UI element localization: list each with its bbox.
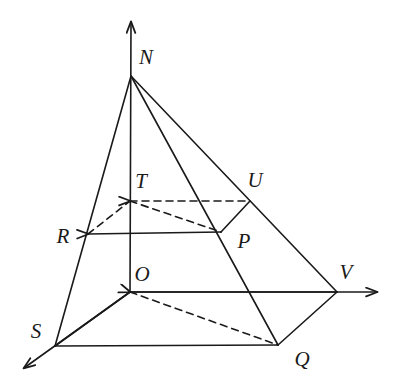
- edge-N-Q: [131, 76, 278, 345]
- edge-Q-V: [278, 292, 337, 345]
- edge-P-U: [221, 201, 250, 232]
- vertex-label-U: U: [247, 170, 262, 191]
- edge-N-S: [55, 76, 131, 346]
- z-axis-vertical: [130, 22, 131, 292]
- vertex-label-V: V: [340, 262, 353, 283]
- edge-O-S: [55, 292, 130, 346]
- vertex-label-O: O: [134, 264, 149, 285]
- geometry-figure: N T U R P O V S Q: [0, 0, 401, 387]
- hidden-edges: [88, 201, 278, 345]
- visible-edges: [55, 76, 337, 346]
- edge-O-Q: [130, 292, 278, 345]
- edge-R-P: [88, 232, 221, 234]
- coordinate-axes: [24, 22, 377, 368]
- edge-S-Q: [55, 345, 278, 346]
- vertex-label-N: N: [139, 47, 153, 68]
- vertex-label-P: P: [238, 231, 251, 252]
- vertex-label-S: S: [31, 321, 42, 342]
- geometry-canvas: [0, 0, 401, 387]
- vertex-label-T: T: [135, 171, 147, 192]
- vertex-label-Q: Q: [294, 349, 309, 370]
- vertex-label-R: R: [57, 226, 70, 247]
- edge-N-V: [131, 76, 337, 292]
